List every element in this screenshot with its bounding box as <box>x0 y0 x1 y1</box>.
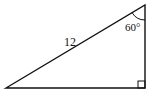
right-angle-marker <box>138 81 145 88</box>
angle-label: 60° <box>125 22 140 33</box>
hypotenuse-label: 12 <box>64 36 76 48</box>
triangle-diagram: 12 60° <box>0 0 150 99</box>
angle-arc <box>132 13 145 20</box>
triangle-figure <box>0 0 150 99</box>
